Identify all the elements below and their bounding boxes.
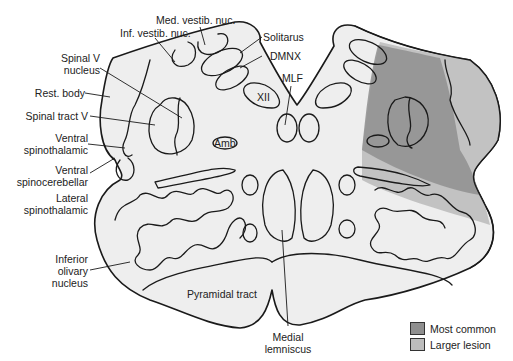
label-med-vestib-nuc: Med. vestib. nuc. [156, 14, 235, 26]
label-line: spinothalamic [0, 204, 88, 216]
label-line: Lateral [0, 192, 88, 204]
legend-swatch-larger-lesion [410, 338, 425, 351]
label-rest-body: Rest. body [10, 87, 85, 99]
label-line: Ventral [5, 132, 88, 144]
legend-label: Most common [430, 323, 496, 335]
label-ventral-spinothalamic: Ventral spinothalamic [5, 132, 88, 156]
legend-item-most-common: Most common [410, 322, 496, 335]
label-spinal-v-nucleus: Spinal V nucleus [30, 52, 100, 76]
label-spinal-tract-v: Spinal tract V [5, 110, 88, 122]
label-line: olivary [0, 265, 88, 277]
label-line: Medial [262, 331, 314, 343]
label-dmnx: DMNX [270, 50, 301, 62]
label-line: Spinal V [30, 52, 100, 64]
label-line: lemniscus [262, 343, 314, 355]
label-line: spinothalamic [5, 144, 88, 156]
label-ventral-spinocerebellar: Ventral spinocerebellar [0, 164, 88, 188]
label-inf-vestib-nuc: Inf. vestib. nuc. [120, 27, 191, 39]
label-line: nucleus [30, 64, 100, 76]
label-medial-lemniscus: Medial lemniscus [262, 331, 314, 355]
label-lateral-spinothalamic: Lateral spinothalamic [0, 192, 88, 216]
label-xii: XII [257, 91, 270, 103]
legend-item-larger-lesion: Larger lesion [410, 338, 491, 351]
label-line: spinocerebellar [0, 176, 88, 188]
legend-swatch-most-common [410, 322, 425, 335]
label-line: nucleus [0, 277, 88, 289]
label-pyramidal-tract: Pyramidal tract [187, 288, 257, 300]
label-mlf: MLF [282, 72, 303, 84]
label-inferior-olivary-nucleus: Inferior olivary nucleus [0, 253, 88, 289]
label-solitarus: Solitarus [263, 31, 304, 43]
label-amb: Amb [214, 137, 236, 149]
label-line: Inferior [0, 253, 88, 265]
label-line: Ventral [0, 164, 88, 176]
legend-label: Larger lesion [430, 339, 491, 351]
